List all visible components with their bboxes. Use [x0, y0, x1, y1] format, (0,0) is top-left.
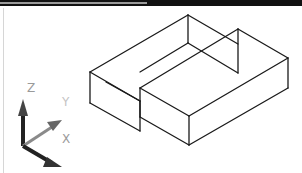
model-edge[interactable]: [106, 82, 140, 101]
model-edge[interactable]: [189, 88, 288, 145]
model-edge[interactable]: [140, 117, 189, 145]
x-axis-label: X: [62, 132, 70, 146]
model-edge[interactable]: [140, 43, 188, 72]
ucs-icon: Z Y X: [18, 81, 70, 167]
model-edge[interactable]: [90, 15, 188, 72]
z-axis-label: Z: [27, 81, 35, 95]
drawing-viewport[interactable]: Z Y X: [0, 0, 302, 173]
model-edge[interactable]: [140, 88, 189, 116]
model-edge[interactable]: [188, 43, 238, 73]
model-edge[interactable]: [90, 103, 140, 131]
model-edge[interactable]: [140, 29, 238, 88]
y-axis-label: Y: [61, 95, 70, 109]
wireframe-model[interactable]: [90, 15, 288, 145]
model-edge[interactable]: [188, 15, 238, 44]
model-edge[interactable]: [238, 29, 288, 58]
z-axis-arrow-icon: [18, 99, 28, 116]
